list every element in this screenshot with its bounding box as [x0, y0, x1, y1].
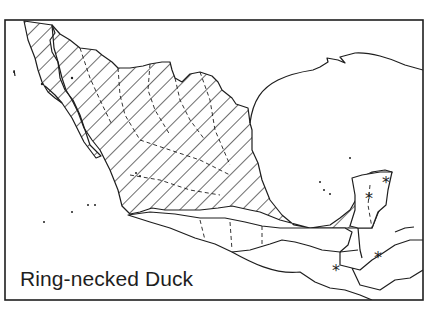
mexico-mainland: [52, 25, 392, 228]
honduras-coast: [395, 227, 414, 232]
star-icon: *: [382, 173, 390, 192]
southern-mexico-unhatched: [128, 212, 352, 252]
species-title: Ring-necked Duck: [20, 267, 193, 291]
range-map: * * * *: [0, 0, 436, 310]
star-icon: *: [332, 261, 340, 280]
star-icon: *: [365, 189, 373, 208]
star-icon: *: [374, 248, 382, 267]
us-gulf-coast: [250, 53, 423, 123]
